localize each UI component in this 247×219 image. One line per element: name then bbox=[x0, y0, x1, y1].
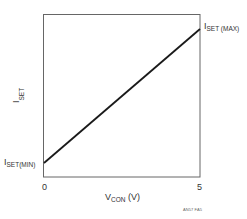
y-max-label: ISET (MAX) bbox=[204, 22, 239, 31]
x-axis-label-sub: CON bbox=[111, 196, 125, 203]
x-tick-5: 5 bbox=[197, 183, 202, 192]
y-max-label-sub: SET (MAX) bbox=[207, 25, 240, 32]
x-axis-label: VCON (V) bbox=[105, 193, 140, 202]
x-axis-label-unit: (V) bbox=[125, 192, 140, 202]
x-tick-0: 0 bbox=[42, 183, 47, 192]
figure-footnote: AN57 FA5 bbox=[183, 207, 202, 212]
y-min-label: ISET(MIN) bbox=[4, 158, 35, 167]
data-line bbox=[44, 29, 200, 163]
y-axis-label-main: I bbox=[11, 100, 21, 103]
chart-plot-area bbox=[0, 0, 247, 219]
y-axis-label-sub: SET bbox=[18, 88, 25, 101]
y-min-label-sub: SET(MIN) bbox=[7, 161, 36, 168]
y-axis-label: ISET bbox=[11, 88, 23, 103]
